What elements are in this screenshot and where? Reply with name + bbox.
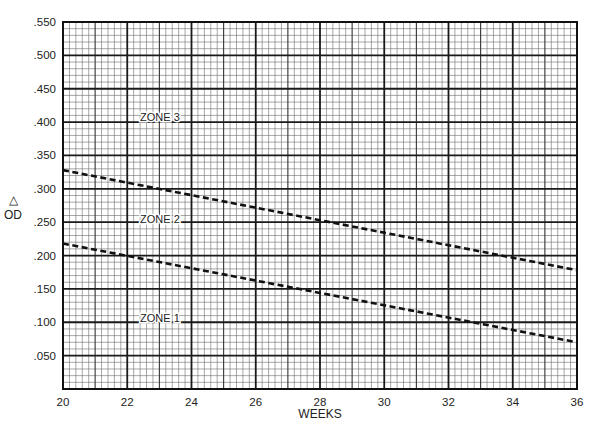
y-tick-label: .350	[34, 149, 56, 161]
y-axis-label: △ OD	[4, 193, 22, 222]
y-axis-title: OD	[4, 208, 22, 222]
x-tick-label: 30	[378, 396, 391, 408]
y-tick-label: .550	[34, 16, 56, 28]
zone-annotations: ZONE 3ZONE 2ZONE 1	[140, 111, 180, 324]
y-tick-label: .500	[34, 49, 56, 61]
y-tick-label: .100	[34, 316, 56, 328]
y-axis-ticks: .050.100.150.200.250.300.350.400.450.500…	[34, 16, 56, 362]
x-tick-label: 34	[506, 396, 519, 408]
x-tick-label: 20	[57, 396, 70, 408]
x-tick-label: 26	[249, 396, 262, 408]
x-tick-label: 24	[185, 396, 198, 408]
y-tick-label: .050	[34, 350, 56, 362]
zone-label-zone-2: ZONE 2	[140, 213, 180, 225]
x-tick-label: 32	[442, 396, 455, 408]
chart-canvas: ZONE 3ZONE 2ZONE 1 .050.100.150.200.250.…	[0, 0, 606, 440]
x-tick-label: 36	[571, 396, 584, 408]
zone-label-zone-3: ZONE 3	[140, 111, 180, 123]
y-tick-label: .150	[34, 283, 56, 295]
y-tick-label: .250	[34, 216, 56, 228]
y-tick-label: .200	[34, 250, 56, 262]
y-tick-label: .300	[34, 183, 56, 195]
x-axis-title: WEEKS	[298, 407, 341, 421]
y-tick-label: .400	[34, 116, 56, 128]
x-tick-label: 22	[121, 396, 134, 408]
zone-label-zone-1: ZONE 1	[140, 312, 180, 324]
y-tick-label: .450	[34, 83, 56, 95]
delta-icon: △	[9, 193, 19, 207]
